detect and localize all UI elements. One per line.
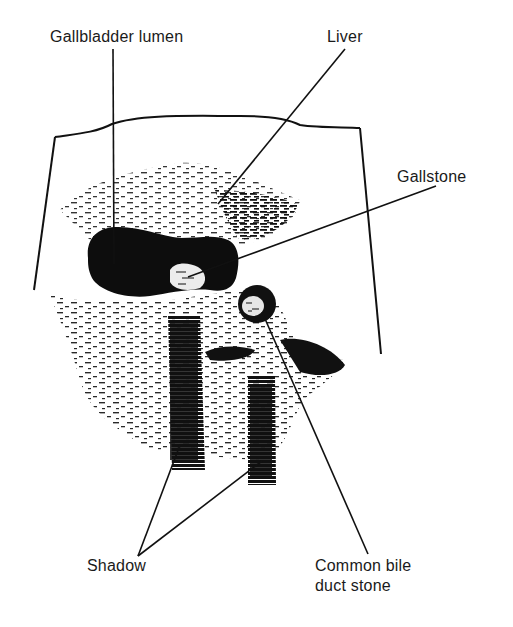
leader-gallbladder-lumen (113, 49, 114, 264)
diagram-artwork (0, 0, 513, 627)
label-shadow: Shadow (87, 556, 146, 576)
label-liver: Liver (327, 27, 363, 47)
label-gallbladder-lumen: Gallbladder lumen (50, 27, 183, 47)
gallbladder-lumen-region (88, 227, 239, 297)
label-cbd-stone-line1: Common bile (315, 556, 411, 576)
label-gallstone: Gallstone (397, 167, 466, 187)
ultrasound-diagram: Gallbladder lumen Liver Gallstone Shadow… (0, 0, 513, 627)
label-cbd-stone-line2: duct stone (315, 576, 391, 596)
common-bile-duct-stone (238, 285, 276, 323)
